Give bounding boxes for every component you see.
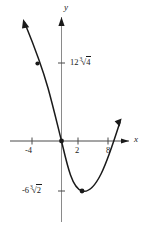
y-value-lower-coefficient: -6 [22,185,29,195]
y-value-upper-coefficient: 12 [70,57,79,67]
y-axis-label: y [64,3,68,12]
y-value-label-upper: 123√4 [70,58,91,67]
curve-point-markers [35,61,84,193]
x-tick-label-8: 8 [106,146,110,155]
y-value-label-lower: -63√2 [22,186,42,195]
graph-figure: y x -4 2 8 123√4 -63√2 [0,0,147,227]
radical-index-lower: 3 [30,184,33,190]
cube-root-icon-lower: 3√2 [29,186,41,195]
x-axis [10,138,129,143]
x-tick-label-minus4: -4 [25,146,32,155]
cube-root-icon-upper: 3√4 [79,58,91,67]
radicand-upper: 4 [86,56,91,67]
x-axis-label: x [134,135,138,144]
radical-index-upper: 3 [80,56,83,62]
x-tick-label-2: 2 [75,146,79,155]
radicand-lower: 2 [36,184,41,195]
curve-path [22,19,122,191]
